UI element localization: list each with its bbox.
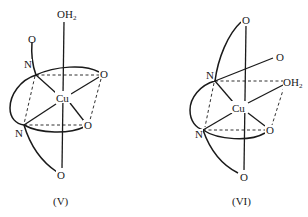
- arm-n-o-pendant: [32, 42, 36, 75]
- atom-o-upper-right: O: [276, 51, 284, 63]
- dash-n-n: [24, 76, 35, 124]
- ring-n-n: [190, 81, 215, 130]
- atom-n-lower: N: [195, 128, 203, 140]
- bond-cu-oh2: [248, 85, 283, 103]
- bond-cu-n-lower: [24, 104, 56, 125]
- atom-o-lower-right: O: [84, 119, 92, 131]
- bond-cu-o-lower: [70, 103, 84, 121]
- dash-o-o: [90, 79, 101, 120]
- caption-v: (V): [53, 195, 69, 208]
- atom-o-pendant: O: [28, 33, 36, 45]
- atom-cu: Cu: [232, 102, 245, 114]
- bond-n-o-upper-right: [215, 58, 273, 81]
- bond-cu-n-upper: [36, 75, 56, 93]
- atom-cu: Cu: [56, 92, 69, 104]
- caption-vi: (VI): [232, 195, 251, 208]
- complex-v: OH2 O N O Cu N O O (V): [10, 6, 109, 208]
- bond-cu-n-upper: [215, 81, 233, 102]
- atom-n-upper: N: [24, 58, 32, 70]
- ring-n-o-lower: [203, 130, 265, 139]
- atom-o-top: O: [242, 14, 250, 26]
- atom-n-upper: N: [206, 69, 214, 81]
- atom-n-lower: N: [15, 127, 23, 139]
- dash-oh2-o: [272, 87, 284, 125]
- complex-vi: O O N OH2 Cu N O O (VI): [190, 14, 305, 208]
- bond-cu-o-lower: [248, 113, 265, 126]
- ring-n-n: [10, 75, 36, 125]
- atom-o-lower-right: O: [266, 124, 274, 136]
- axial-bond: [244, 26, 246, 170]
- ring-n-o-upper: [36, 67, 99, 75]
- atom-o-bottom: O: [240, 171, 248, 183]
- atom-o-bottom: O: [57, 169, 65, 181]
- atom-o-upper-right: O: [100, 68, 108, 80]
- coordination-diagrams: OH2 O N O Cu N O O (V): [0, 0, 308, 217]
- dash-n-n: [205, 83, 214, 127]
- ring-n-o-lower: [24, 125, 84, 132]
- bond-cu-o-upper: [71, 77, 99, 94]
